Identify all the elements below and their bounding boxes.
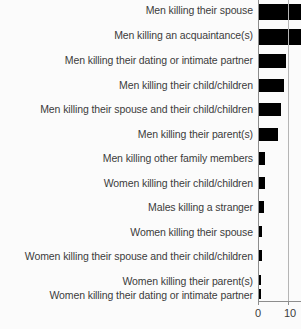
bar-label: Males killing a stranger: [148, 201, 253, 213]
x-tick-label-10: 10: [284, 306, 296, 320]
y-axis-line: [258, 0, 259, 301]
bar: [259, 250, 262, 261]
bar: [259, 289, 261, 299]
bar: [259, 201, 264, 213]
bar-label: Women killing their parent(s): [122, 275, 253, 287]
bar-label: Women killing their dating or intimate p…: [49, 289, 253, 301]
bar: [259, 79, 284, 92]
bar-label: Men killing their spouse and their child…: [40, 103, 253, 115]
bar-chart: Men killing their spouse Men killing an …: [0, 0, 301, 329]
bar: [259, 4, 301, 20]
x-tick-label-0: 0: [255, 306, 261, 320]
x-axis-line: [258, 301, 301, 302]
bar-label: Men killing their parent(s): [138, 128, 253, 140]
x-tick-mark-0: [258, 301, 259, 305]
bar: [259, 275, 261, 285]
bar-label: Men killing an acquaintance(s): [114, 29, 253, 41]
bar: [259, 29, 301, 45]
bar-label: Women killing their child/children: [104, 177, 253, 189]
bar: [259, 152, 265, 165]
bar-label: Women killing their spouse: [130, 226, 253, 238]
bar-rows: Men killing their spouse Men killing an …: [0, 0, 301, 301]
bar: [259, 128, 278, 141]
bar: [259, 103, 281, 116]
bar-label: Women killing their spouse and their chi…: [25, 250, 253, 262]
bar: [259, 226, 262, 237]
bar-label: Men killing their spouse: [146, 4, 253, 16]
x-tick-mark-10: [288, 301, 289, 305]
bar-label: Men killing their child/children: [119, 79, 253, 91]
x-gridline-10: [288, 0, 289, 301]
bar-label: Men killing other family members: [103, 152, 253, 164]
bar: [259, 177, 265, 189]
bar-label: Men killing their dating or intimate par…: [65, 54, 253, 66]
bar: [259, 54, 286, 68]
